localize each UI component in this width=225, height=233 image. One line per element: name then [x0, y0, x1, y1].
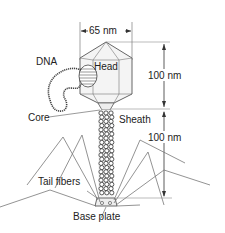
label-tail-height: 100 nm [148, 133, 181, 143]
dna-strand [48, 68, 81, 111]
base-plate [95, 198, 117, 206]
label-width: 65 nm [89, 26, 117, 36]
label-base-plate: Base plate [73, 212, 120, 222]
sheath-rings [99, 111, 114, 195]
label-head-height: 100 nm [148, 71, 181, 81]
label-sheath: Sheath [119, 115, 151, 125]
label-dna: DNA [36, 57, 57, 67]
phage-diagram: 65 nm Head DNA 100 nm Core Sheath 100 nm… [0, 0, 225, 233]
label-core: Core [28, 113, 50, 123]
label-tail-fibers: Tail fibers [38, 177, 80, 187]
label-head: Head [94, 62, 118, 72]
